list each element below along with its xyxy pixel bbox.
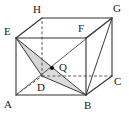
cube-diagram-svg — [0, 0, 129, 115]
label-C: C — [114, 76, 121, 87]
label-E: E — [4, 26, 11, 37]
geometry-figure: E H G F C D A B Q — [0, 0, 129, 115]
label-F: F — [78, 23, 84, 34]
label-H: H — [33, 4, 41, 15]
point-marker-Q — [50, 66, 54, 70]
edge-B-C — [86, 76, 112, 95]
label-G: G — [113, 3, 121, 14]
label-D: D — [37, 82, 45, 93]
label-A: A — [4, 99, 12, 110]
label-B: B — [84, 100, 91, 111]
edge-E-H — [16, 18, 42, 38]
line-B-G — [86, 18, 112, 95]
label-Q: Q — [59, 62, 67, 73]
